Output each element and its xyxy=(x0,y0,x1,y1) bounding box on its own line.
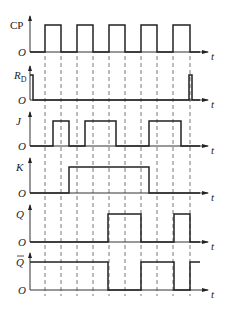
y-axis-arrow-icon xyxy=(28,65,32,71)
origin-label: O xyxy=(18,46,26,58)
signal-rows: tOCPtORDtOJtOKtOQtOQ xyxy=(10,15,215,300)
signal-row-qbar: tOQ xyxy=(16,252,215,300)
time-label: t xyxy=(211,288,215,300)
signal-row-cp: tOCP xyxy=(10,15,215,62)
jk-flipflop-timing-diagram: tOCPtORDtOJtOKtOQtOQ xyxy=(0,0,225,313)
signal-row-j: tOJ xyxy=(16,111,215,156)
waveform-qbar xyxy=(30,262,200,290)
waveform-j xyxy=(30,121,200,146)
signal-label: RD xyxy=(13,69,27,84)
y-axis-arrow-icon xyxy=(28,111,32,117)
time-axis-arrow-icon xyxy=(202,288,209,292)
signal-row-rd: tORD xyxy=(13,65,215,110)
waveform-q xyxy=(30,214,200,242)
y-axis-arrow-icon xyxy=(28,157,32,163)
signal-label: CP xyxy=(10,19,23,31)
y-axis-arrow-icon xyxy=(28,252,32,258)
time-axis-arrow-icon xyxy=(202,98,209,102)
time-axis-arrow-icon xyxy=(202,50,209,54)
waveform-cp xyxy=(30,25,200,52)
signal-row-q: tOQ xyxy=(16,204,215,252)
time-label: t xyxy=(211,191,215,203)
origin-label: O xyxy=(18,187,26,199)
time-label: t xyxy=(211,50,215,62)
origin-label: O xyxy=(18,236,26,248)
time-axis-arrow-icon xyxy=(202,191,209,195)
y-axis-arrow-icon xyxy=(28,15,32,21)
origin-label: O xyxy=(18,284,26,296)
signal-label: Q xyxy=(16,208,24,220)
time-label: t xyxy=(211,144,215,156)
y-axis-arrow-icon xyxy=(28,204,32,210)
clock-edge-guides xyxy=(45,56,190,296)
time-axis-arrow-icon xyxy=(202,240,209,244)
waveform-rd xyxy=(30,75,200,100)
waveform-k xyxy=(30,167,200,193)
time-label: t xyxy=(211,240,215,252)
time-axis-arrow-icon xyxy=(202,144,209,148)
signal-label: J xyxy=(16,115,22,127)
time-label: t xyxy=(211,98,215,110)
origin-label: O xyxy=(18,94,26,106)
origin-label: O xyxy=(18,140,26,152)
signal-label: K xyxy=(15,161,24,173)
signal-label: Q xyxy=(16,256,24,268)
